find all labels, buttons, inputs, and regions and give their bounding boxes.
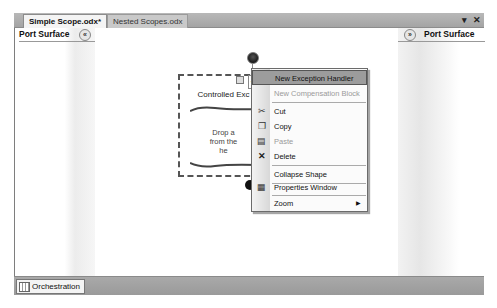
designer-bottom-bar: Orchestration — [14, 276, 484, 295]
menu-item-paste[interactable]: ▤ Paste — [252, 134, 367, 149]
tab-nested-scopes[interactable]: Nested Scopes.odx — [107, 14, 188, 28]
tab-strip-controls: ▾ ✕ — [459, 13, 481, 27]
scope-bottom-wave — [190, 162, 260, 168]
menu-item-label: Copy — [274, 119, 292, 134]
menu-item-new-exception-handler[interactable]: New Exception Handler — [252, 70, 367, 85]
tab-orchestration-label: Orchestration — [32, 282, 80, 291]
submenu-arrow-icon: ▶ — [356, 196, 361, 211]
port-surface-right[interactable]: »Port Surface — [398, 28, 485, 276]
port-surface-left-label: Port Surface — [19, 29, 70, 39]
design-surface[interactable]: Port Surface « »Port Surface {} Controll… — [14, 28, 485, 276]
properties-icon: ▦ — [256, 182, 267, 193]
port-surface-left[interactable]: Port Surface « — [15, 28, 95, 276]
menu-item-zoom[interactable]: Zoom ▶ — [252, 196, 367, 211]
menu-item-label: Cut — [274, 104, 286, 119]
tab-orchestration[interactable]: Orchestration — [16, 279, 85, 294]
context-menu: New Exception Handler New Compensation B… — [251, 68, 368, 212]
delete-icon: ✕ — [256, 151, 267, 162]
menu-item-label: Zoom — [274, 196, 293, 211]
menu-item-delete[interactable]: ✕ Delete — [252, 149, 367, 164]
menu-item-label: New Exception Handler — [275, 71, 353, 86]
menu-separator — [272, 165, 366, 166]
menu-item-copy[interactable]: ❐ Copy — [252, 119, 367, 134]
port-surface-right-header: »Port Surface — [398, 28, 485, 42]
tab-simple-scope[interactable]: Simple Scope.odx* — [23, 14, 107, 29]
copy-icon: ❐ — [256, 121, 267, 132]
collapse-left-icon[interactable]: « — [79, 29, 91, 41]
menu-item-label: Paste — [274, 134, 293, 149]
menu-item-properties-window[interactable]: ▦ Properties Window — [252, 180, 367, 195]
menu-item-label: Properties Window — [274, 180, 337, 195]
port-surface-right-label: Port Surface — [424, 29, 475, 39]
port-surface-left-header: Port Surface « — [19, 28, 95, 42]
menu-separator — [272, 102, 366, 103]
scissors-icon: ✂ — [256, 106, 267, 117]
scope-collapse-icon[interactable] — [236, 76, 244, 84]
document-tab-strip: Simple Scope.odx* Nested Scopes.odx ▾ ✕ — [14, 13, 484, 28]
menu-item-label: New Compensation Block — [274, 86, 360, 101]
orchestration-designer-window: Simple Scope.odx* Nested Scopes.odx ▾ ✕ … — [14, 13, 484, 294]
start-shape-icon[interactable] — [247, 52, 259, 64]
orchestration-icon — [19, 282, 30, 292]
scope-top-wave — [190, 106, 260, 112]
window-dropdown-icon[interactable]: ▾ — [462, 15, 467, 25]
menu-item-new-compensation-block[interactable]: New Compensation Block — [252, 86, 367, 101]
menu-item-label: Delete — [274, 149, 296, 164]
expand-right-icon[interactable]: » — [404, 29, 416, 41]
menu-item-cut[interactable]: ✂ Cut — [252, 104, 367, 119]
paste-icon: ▤ — [256, 136, 267, 147]
close-icon[interactable]: ✕ — [473, 15, 481, 25]
